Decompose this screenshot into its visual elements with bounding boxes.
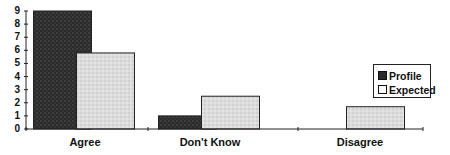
expected-swatch-icon: [378, 85, 387, 94]
x-category-label: Don't Know: [160, 136, 260, 148]
legend-label-expected: Expected: [389, 84, 436, 96]
y-tick-label: 0: [6, 124, 20, 134]
bar-chart: 0123456789 AgreeDon't KnowDisagree Profi…: [0, 0, 450, 155]
y-tick-label: 8: [6, 19, 20, 29]
x-category-label: Agree: [35, 136, 135, 148]
y-tick-label: 2: [6, 98, 20, 108]
y-tick-label: 9: [6, 6, 20, 16]
profile-swatch-icon: [378, 71, 387, 80]
y-tick-label: 4: [6, 72, 20, 82]
y-tick-label: 1: [6, 111, 20, 121]
bar-expected-agree: [77, 53, 135, 129]
y-tick-label: 5: [6, 58, 20, 68]
legend-item-expected: Expected: [378, 84, 436, 96]
bars-group: [34, 11, 405, 129]
y-tick-label: 3: [6, 85, 20, 95]
y-tick-label: 7: [6, 32, 20, 42]
legend-label-profile: Profile: [389, 70, 422, 82]
y-tick-label: 6: [6, 45, 20, 55]
legend-item-profile: Profile: [378, 70, 422, 82]
bar-expected-disagree: [347, 107, 405, 129]
bar-expected-don-t-know: [202, 96, 260, 129]
legend: Profile Expected: [373, 64, 431, 98]
x-category-label: Disagree: [310, 136, 410, 148]
